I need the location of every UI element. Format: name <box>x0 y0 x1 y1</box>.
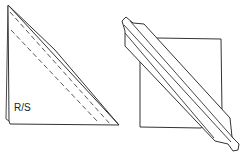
diagram-canvas <box>0 0 244 158</box>
right-side-label: R/S <box>14 102 31 113</box>
